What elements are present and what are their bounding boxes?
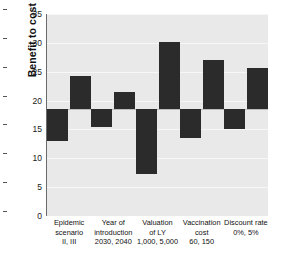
grid-line [47,43,268,44]
bar-high-1 [114,92,135,109]
y-axis-tick-mark [3,96,7,97]
bar-low-3 [180,109,201,138]
bar-low-1 [91,109,112,126]
y-axis-tick-label: 20 [7,96,47,106]
y-axis-tick-mark [3,9,7,10]
y-axis-tick-label: 25 [7,67,47,77]
x-axis-labels: EpidemicscenarioII, IIIYear ofintroducti… [47,218,268,256]
x-axis-category-label-4: Discount rate0%, 5% [220,218,272,237]
grid-line [47,187,268,188]
bar-low-2 [136,109,157,174]
plot-area: 05101520253035 [47,14,268,216]
y-axis-tick-mark [3,124,7,125]
bar-high-2 [159,42,180,109]
grid-line [47,14,268,15]
y-axis-tick-label: 5 [7,182,47,192]
grid-line [47,158,268,159]
y-axis-tick-label: 0 [7,211,47,221]
grid-line [47,72,268,73]
bar-high-4 [247,68,268,109]
y-axis-tick-label: 15 [7,124,47,134]
y-axis-tick-mark [3,153,7,154]
bar-high-0 [70,76,91,109]
x-axis-label-line: 60, 150 [176,237,228,247]
y-axis-tick-mark [3,182,7,183]
x-axis-label-line: Discount rate [220,218,272,228]
y-axis-tick-label: 10 [7,153,47,163]
grid-line [47,129,268,130]
y-axis-tick-mark [3,67,7,68]
y-axis-tick-mark [3,211,7,212]
y-axis-tick-mark [3,38,7,39]
benefit-cost-ratio-chart: Benefit to cost ratio 05101520253035 Epi… [0,0,285,257]
bar-low-0 [47,109,68,141]
x-axis-label-line: 0%, 5% [220,228,272,238]
bar-high-3 [203,60,224,110]
bar-low-4 [224,109,245,129]
y-axis-tick-label: 35 [7,9,47,19]
y-axis-tick-label: 30 [7,38,47,48]
